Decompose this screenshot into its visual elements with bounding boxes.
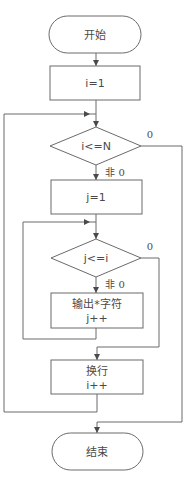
init-i-label: i=1 <box>85 77 104 90</box>
print-star-box: 输出*字符 j++ <box>51 293 143 328</box>
newline-box: 换行 i++ <box>51 360 143 394</box>
inner-false-label: 0 <box>147 241 153 252</box>
init-j-label: j=1 <box>85 191 105 204</box>
end-label: 结束 <box>86 446 108 459</box>
outer-condition-label: i<=N <box>81 140 111 153</box>
outer-condition-diamond: i<=N 0 非 0 <box>50 127 153 178</box>
inner-condition-label: j<=i <box>83 252 109 265</box>
newline-line2: i++ <box>86 379 108 392</box>
outer-false-label: 0 <box>147 129 153 140</box>
start-label: 开始 <box>84 28 106 42</box>
end-terminal: 结束 <box>52 433 143 470</box>
init-j-box: j=1 <box>51 180 142 214</box>
inner-true-label: 非 0 <box>105 279 125 290</box>
newline-line1: 换行 <box>86 364 108 378</box>
flowchart: 开始 i=1 i<=N 0 非 0 j=1 j<=i 0 非 0 输出*字符 j… <box>0 0 188 477</box>
print-star-line2: j++ <box>85 312 108 325</box>
print-star-line1: 输出*字符 <box>72 297 122 311</box>
start-terminal: 开始 <box>49 16 141 53</box>
outer-true-label: 非 0 <box>105 167 125 178</box>
init-i-box: i=1 <box>50 66 140 100</box>
inner-condition-diamond: j<=i 0 非 0 <box>51 239 153 290</box>
